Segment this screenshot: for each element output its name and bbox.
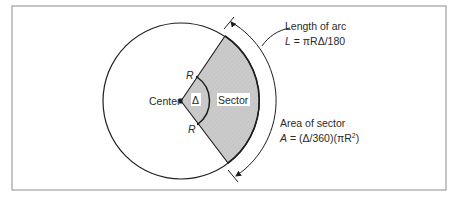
delta-arc-end-top xyxy=(196,76,198,78)
arc-length-title: Length of arc xyxy=(285,20,346,32)
delta-label: Δ xyxy=(192,94,199,106)
radius-label-top: R xyxy=(186,69,194,81)
radius-label-bottom: R xyxy=(188,123,196,135)
sector-diagram: Center R R Δ Sector Length of arc L = πR… xyxy=(0,0,455,201)
area-close: ) xyxy=(356,132,360,144)
area-var: A xyxy=(279,132,287,144)
sector-label: Sector xyxy=(218,94,249,106)
arc-length-formula: L = πRΔ/180 xyxy=(285,35,345,47)
area-title: Area of sector xyxy=(280,117,346,129)
area-formula: A = (Δ/360)(πR2) xyxy=(279,132,359,144)
arc-length-expr: = πRΔ/180 xyxy=(291,35,345,47)
center-label: Center xyxy=(149,95,181,107)
area-expr: = (Δ/360)(πR xyxy=(287,132,352,144)
delta-arc-end-bottom xyxy=(197,123,199,125)
